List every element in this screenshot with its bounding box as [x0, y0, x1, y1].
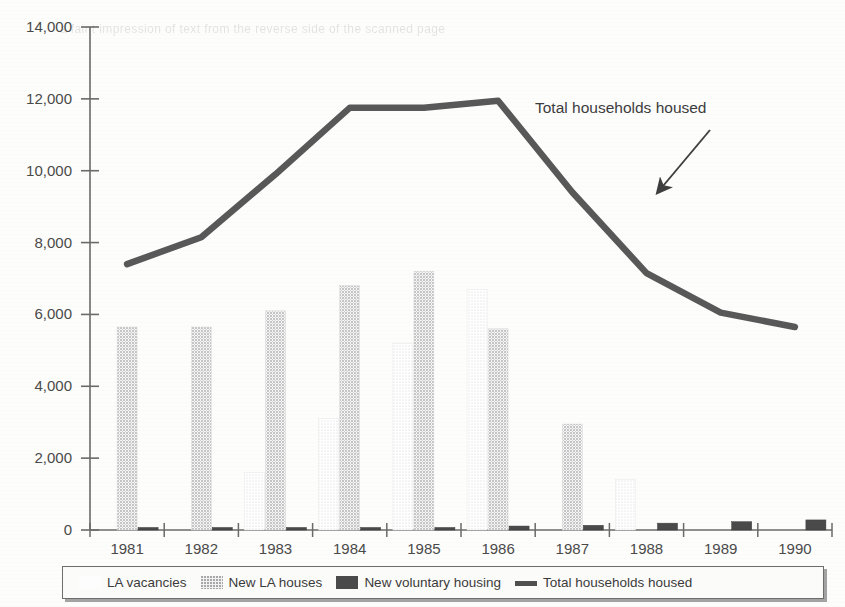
legend-item-new-voluntary-housing: New voluntary housing — [336, 575, 501, 590]
bar-new-voluntary-housing-1989 — [732, 522, 752, 530]
bar-new-voluntary-housing-1987 — [583, 525, 603, 530]
bar-new-la-houses-1981 — [117, 327, 137, 530]
x-tick-label: 1986 — [481, 540, 514, 557]
legend-label-new-voluntary-housing: New voluntary housing — [364, 575, 501, 590]
y-axis: 02,0004,0006,0008,00010,00012,00014,000 — [26, 18, 99, 538]
y-tick-label: 14,000 — [26, 18, 72, 35]
x-tick-label: 1981 — [110, 540, 143, 557]
total-households-housed-swatch-icon — [515, 581, 537, 586]
total-households-housed-line — [127, 101, 795, 327]
x-tick-label: 1987 — [556, 540, 589, 557]
chart-legend: LA vacancies New LA houses New voluntary… — [62, 566, 824, 599]
bar-new-voluntary-housing-1982 — [212, 528, 232, 531]
bar-new-la-houses-1984 — [340, 286, 360, 530]
x-tick-label: 1988 — [630, 540, 663, 557]
new-la-houses-swatch-icon — [201, 576, 223, 589]
x-tick-label: 1989 — [704, 540, 737, 557]
x-tick-label: 1984 — [333, 540, 366, 557]
bar-new-la-houses-1985 — [414, 271, 434, 530]
la-vacancies-swatch-icon — [79, 576, 101, 589]
series-annotation-label: Total households housed — [535, 99, 707, 116]
y-tick-label: 12,000 — [26, 90, 72, 107]
bar-new-la-houses-1983 — [266, 311, 286, 530]
bar-la-vacancies-1985 — [393, 343, 413, 530]
bar-la-vacancies-1983 — [245, 473, 265, 530]
bar-new-la-houses-1982 — [191, 327, 211, 530]
bar-new-voluntary-housing-1981 — [138, 528, 158, 531]
bar-la-vacancies-1986 — [467, 289, 487, 530]
legend-item-la-vacancies: LA vacancies — [79, 575, 187, 590]
chart-svg: 02,0004,0006,0008,00010,00012,00014,000 … — [0, 0, 845, 607]
bar-la-vacancies-1984 — [319, 419, 339, 530]
bar-new-la-houses-1987 — [562, 424, 582, 530]
x-tick-label: 1983 — [259, 540, 292, 557]
bar-new-voluntary-housing-1986 — [509, 526, 529, 530]
bar-new-la-houses-1986 — [488, 329, 508, 530]
bar-new-voluntary-housing-1983 — [287, 527, 307, 530]
y-tick-label: 6,000 — [34, 305, 72, 322]
legend-item-total-households-housed: Total households housed — [515, 575, 692, 590]
new-voluntary-housing-swatch-icon — [336, 576, 358, 589]
y-tick-label: 2,000 — [34, 449, 72, 466]
line-series-total-households-housed — [127, 101, 795, 327]
x-tick-label: 1985 — [407, 540, 440, 557]
y-tick-label: 10,000 — [26, 162, 72, 179]
chart-figure: 02,0004,0006,0008,00010,00012,00014,000 … — [0, 0, 845, 607]
bar-new-voluntary-housing-1985 — [435, 527, 455, 530]
legend-item-new-la-houses: New LA houses — [201, 575, 323, 590]
x-tick-label: 1982 — [185, 540, 218, 557]
legend-label-total-households-housed: Total households housed — [543, 575, 692, 590]
bar-new-voluntary-housing-1988 — [658, 523, 678, 530]
legend-label-la-vacancies: LA vacancies — [107, 575, 187, 590]
y-tick-label: 0 — [64, 521, 72, 538]
legend-label-new-la-houses: New LA houses — [229, 575, 323, 590]
y-tick-label: 8,000 — [34, 234, 72, 251]
y-tick-label: 4,000 — [34, 377, 72, 394]
x-tick-label: 1990 — [778, 540, 811, 557]
bar-new-voluntary-housing-1984 — [361, 528, 381, 531]
annotation-arrow-icon — [658, 130, 710, 192]
bar-new-voluntary-housing-1990 — [806, 520, 826, 530]
bar-la-vacancies-1988 — [616, 480, 636, 530]
